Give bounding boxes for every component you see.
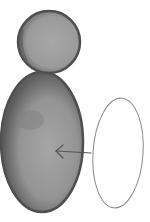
figure-body bbox=[1, 72, 83, 212]
figure-head bbox=[18, 11, 80, 73]
illustration-canvas bbox=[0, 0, 150, 222]
outline-ellipse bbox=[89, 96, 147, 209]
